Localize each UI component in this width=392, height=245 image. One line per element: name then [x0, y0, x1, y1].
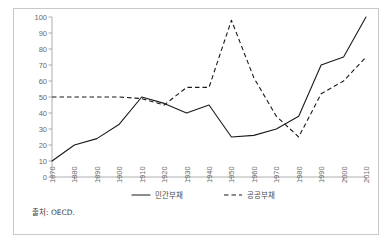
y-tick-label: 30: [39, 125, 47, 134]
chart-legend: 민간부채공공부채: [132, 190, 275, 200]
y-tick-label: 40: [39, 109, 47, 118]
y-axis-tick-labels: 0102030405060708090100: [34, 13, 47, 182]
y-tick-label: 100: [34, 13, 47, 22]
y-tick-label: 10: [39, 157, 47, 166]
source-note: 출처: OECD.: [32, 207, 75, 217]
x-tick-label: 1910: [138, 166, 147, 183]
legend-label: 공공부채: [247, 190, 275, 200]
y-tick-label: 80: [39, 45, 47, 54]
legend-label: 민간부채: [155, 190, 183, 200]
source-note-area: 출처: OECD.: [14, 201, 378, 229]
y-tick-label: 90: [39, 29, 47, 38]
x-tick-label: 1880: [70, 166, 79, 183]
x-tick-label: 1930: [183, 166, 192, 183]
x-tick-label: 1870: [48, 166, 57, 183]
x-tick-label: 1940: [205, 166, 214, 183]
x-tick-label: 1890: [93, 166, 102, 183]
x-tick-label: 1920: [160, 166, 169, 183]
series-line-public-debt: [52, 20, 366, 137]
x-tick-label: 1980: [295, 166, 304, 183]
x-tick-label: 1900: [115, 166, 124, 183]
x-tick-label: 2000: [340, 166, 349, 183]
x-tick-label: 1970: [272, 166, 281, 183]
x-tick-label: 1960: [250, 166, 259, 183]
y-tick-label: 20: [39, 141, 47, 150]
x-tick-label: 2010: [362, 166, 371, 183]
series-line-private-debt: [52, 17, 366, 161]
y-tick-label: 60: [39, 77, 47, 86]
y-tick-label: 70: [39, 61, 47, 70]
y-tick-label: 50: [39, 93, 47, 102]
x-axis-tick-labels: 1870188018901900191019201930194019501960…: [48, 166, 371, 183]
x-tick-label: 1950: [227, 166, 236, 183]
y-tick-label: 0: [43, 173, 47, 182]
x-tick-label: 1990: [317, 166, 326, 183]
chart-figure: 0102030405060708090100 18701880189019001…: [13, 8, 379, 235]
y-axis-tick-marks: [49, 17, 53, 177]
